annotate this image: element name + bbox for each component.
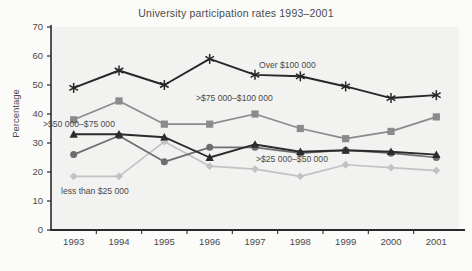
- x-tick-label: 1995: [154, 236, 175, 247]
- x-tick-label: 1993: [63, 236, 84, 247]
- square-marker: [115, 97, 122, 104]
- series-annotation: >$75 000–$100 000: [196, 93, 273, 103]
- chart-figure: University participation rates 1993–2001…: [0, 0, 472, 271]
- series-annotation: >$25 000–$50 000: [256, 154, 328, 164]
- square-marker: [251, 110, 258, 117]
- y-tick-label: 20: [32, 166, 43, 177]
- x-tick-label: 1999: [335, 236, 356, 247]
- y-tick-label: 50: [32, 79, 43, 90]
- x-tick-label: 1996: [199, 236, 220, 247]
- line-chart-plot: 010203040506070 199319941995199619971998…: [0, 0, 472, 271]
- y-tick-label: 10: [32, 195, 43, 206]
- y-tick-label: 40: [32, 108, 43, 119]
- square-marker: [161, 121, 168, 128]
- square-marker: [297, 125, 304, 132]
- series-annotation: >$50 000–$75 000: [43, 119, 115, 129]
- y-tick-label: 70: [32, 21, 43, 32]
- y-tick-label: 30: [32, 137, 43, 148]
- square-marker: [433, 113, 440, 120]
- x-tick-label: 1994: [108, 236, 129, 247]
- series-annotation: Over $100 000: [259, 60, 316, 70]
- x-tick-label: 1998: [290, 236, 311, 247]
- x-axis-ticks: 199319941995199619971998199920002001: [63, 230, 447, 247]
- square-marker: [387, 128, 394, 135]
- square-marker: [206, 121, 213, 128]
- circle-marker: [206, 144, 213, 151]
- circle-marker: [70, 151, 77, 158]
- square-marker: [342, 135, 349, 142]
- circle-marker: [161, 158, 168, 165]
- x-tick-label: 2000: [380, 236, 401, 247]
- y-tick-label: 60: [32, 50, 43, 61]
- series-annotation: less than $25 000: [61, 186, 129, 196]
- x-tick-label: 1997: [244, 236, 265, 247]
- y-tick-label: 0: [38, 224, 43, 235]
- x-tick-label: 2001: [426, 236, 447, 247]
